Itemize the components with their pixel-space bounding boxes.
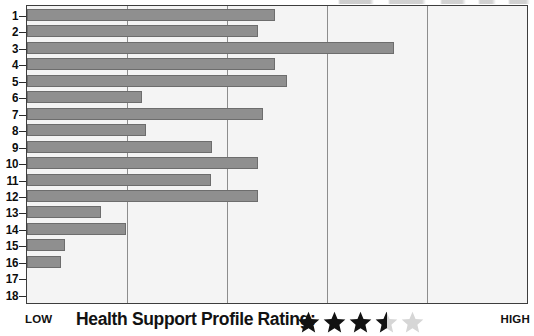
chart-caption-title: Health Support Profile Rating: (76, 309, 315, 330)
chart-page: 123456789101112131415161718 LOW Health S… (0, 0, 534, 336)
bar (27, 206, 101, 218)
y-axis-tick (19, 65, 26, 66)
bar (27, 157, 258, 169)
y-axis-tick (19, 181, 26, 182)
y-axis-tick (19, 230, 26, 231)
y-axis-tick (19, 49, 26, 50)
y-axis-tick-label: 2 (0, 26, 18, 38)
y-axis-tick (19, 115, 26, 116)
bar (27, 124, 146, 136)
y-axis-tick-label: 11 (0, 175, 18, 187)
bar (27, 42, 394, 54)
bar (27, 91, 142, 103)
bar (27, 75, 287, 87)
y-axis-tick-label: 15 (0, 240, 18, 252)
y-axis-tick (19, 296, 26, 297)
gridline (427, 6, 428, 303)
y-axis-tick-label: 9 (0, 142, 18, 154)
star-icon[interactable] (348, 310, 373, 335)
y-axis-tick-label: 6 (0, 92, 18, 104)
star-icon[interactable] (400, 310, 425, 335)
star-icon[interactable] (296, 310, 321, 335)
y-axis-labels: 123456789101112131415161718 (0, 7, 26, 303)
star-icon[interactable] (374, 310, 399, 335)
bar (27, 174, 211, 186)
y-axis-tick (19, 164, 26, 165)
y-axis-tick-label: 10 (0, 158, 18, 170)
axis-high-label: HIGH (500, 313, 530, 325)
y-axis-tick-label: 13 (0, 207, 18, 219)
bar (27, 58, 275, 70)
plot-area (26, 5, 528, 304)
y-axis-tick (19, 246, 26, 247)
y-axis-tick-label: 7 (0, 109, 18, 121)
bar (27, 9, 275, 21)
cropped-header-artifact (330, 0, 534, 4)
caption-row: LOW Health Support Profile Rating: HIGH (0, 308, 534, 336)
y-axis-tick (19, 32, 26, 33)
y-axis-tick (19, 263, 26, 264)
y-axis-tick-label: 14 (0, 224, 18, 236)
bar (27, 108, 263, 120)
y-axis-tick (19, 197, 26, 198)
y-axis-tick-label: 8 (0, 125, 18, 137)
y-axis-tick-label: 17 (0, 273, 18, 285)
y-axis-tick-label: 3 (0, 43, 18, 55)
y-axis-tick-label: 12 (0, 191, 18, 203)
y-axis-tick-label: 5 (0, 76, 18, 88)
y-axis-tick-label: 4 (0, 59, 18, 71)
y-axis-tick-label: 18 (0, 290, 18, 302)
axis-low-label: LOW (25, 313, 52, 325)
y-axis-tick-label: 16 (0, 257, 18, 269)
y-axis-tick (19, 16, 26, 17)
y-axis-tick (19, 213, 26, 214)
bar (27, 256, 61, 268)
bar (27, 190, 258, 202)
star-rating[interactable] (296, 308, 425, 336)
bar (27, 239, 65, 251)
y-axis-tick-label: 1 (0, 10, 18, 22)
y-axis-tick (19, 98, 26, 99)
bar (27, 141, 212, 153)
y-axis-tick (19, 279, 26, 280)
y-axis-tick (19, 131, 26, 132)
y-axis-tick (19, 148, 26, 149)
y-axis-tick (19, 82, 26, 83)
bar (27, 25, 258, 37)
star-icon[interactable] (322, 310, 347, 335)
bar (27, 223, 126, 235)
